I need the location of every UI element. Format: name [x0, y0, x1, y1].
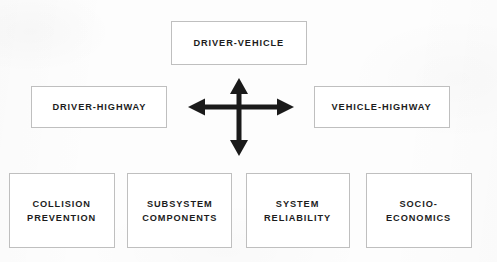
- cross-arrow-svg: [186, 76, 296, 158]
- node-box-vehicle-highway[interactable]: VEHICLE-HIGHWAY: [314, 86, 450, 128]
- node-box-subsystem-components[interactable]: SUBSYSTEM COMPONENTS: [127, 173, 232, 248]
- node-box-driver-vehicle[interactable]: DRIVER-VEHICLE: [171, 21, 307, 65]
- arrowhead-right: [277, 99, 294, 116]
- node-label-vehicle-highway: VEHICLE-HIGHWAY: [332, 100, 432, 114]
- node-label-subsystem-components: SUBSYSTEM COMPONENTS: [142, 197, 217, 225]
- node-box-collision-prevention[interactable]: COLLISION PREVENTION: [9, 173, 115, 248]
- diagram-canvas: DRIVER-VEHICLE DRIVER-HIGHWAY VEHICLE-HI…: [0, 0, 497, 262]
- arrowhead-up: [230, 78, 248, 94]
- arrowhead-down: [230, 140, 248, 156]
- four-headed-cross-arrow-icon: [186, 76, 296, 158]
- node-label-driver-vehicle: DRIVER-VEHICLE: [194, 36, 285, 50]
- node-label-system-reliability: SYSTEM RELIABILITY: [265, 197, 332, 225]
- node-box-driver-highway[interactable]: DRIVER-HIGHWAY: [31, 86, 167, 128]
- node-box-system-reliability[interactable]: SYSTEM RELIABILITY: [246, 173, 350, 248]
- node-label-collision-prevention: COLLISION PREVENTION: [27, 197, 96, 225]
- node-label-driver-highway: DRIVER-HIGHWAY: [52, 100, 146, 114]
- arrowhead-left: [188, 99, 205, 116]
- node-box-socio-economics[interactable]: SOCIO- ECONOMICS: [366, 173, 472, 248]
- node-label-socio-economics: SOCIO- ECONOMICS: [386, 197, 451, 225]
